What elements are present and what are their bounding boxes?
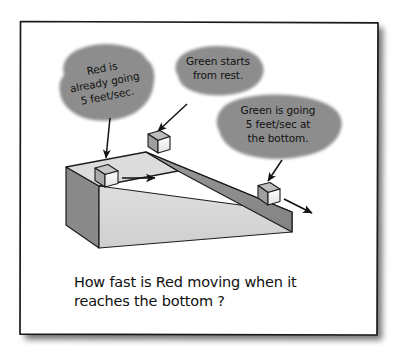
red-bubble: Red is already going 5 feet/sec.	[57, 42, 150, 117]
green-start-bubble: Green starts from rest.	[173, 44, 260, 92]
caption-line-2: reaches the bottom ?	[74, 293, 225, 309]
caption-line-1: How fast is Red moving when it	[74, 274, 297, 290]
green-bottom-bubble-line-2: 5 feet/sec at	[246, 118, 311, 130]
figure-panel: Red is already going 5 feet/sec. Green s…	[0, 0, 403, 363]
green-start-bubble-line-2: from rest.	[193, 69, 243, 81]
green-start-bubble-shape	[173, 44, 260, 92]
green-bottom-bubble-line-1: Green is going	[241, 104, 316, 116]
illustration-canvas: Red is already going 5 feet/sec. Green s…	[0, 0, 403, 363]
green-bottom-bubble-line-3: the bottom.	[248, 132, 309, 144]
green-bottom-bubble: Green is going 5 feet/sec at the bottom.	[215, 92, 338, 155]
green-start-bubble-line-1: Green starts	[186, 55, 250, 67]
